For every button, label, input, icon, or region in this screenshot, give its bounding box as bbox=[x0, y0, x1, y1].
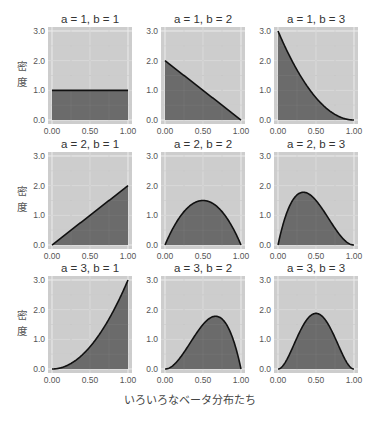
y-axis-label-row-3: 密度 bbox=[17, 309, 28, 337]
x-tick-label: 0.50 bbox=[82, 375, 99, 385]
y-tick-label: 0.0 bbox=[259, 115, 271, 125]
y-tick-label: 1.0 bbox=[146, 85, 158, 95]
y-tick-label: 3.0 bbox=[146, 26, 158, 36]
y-tick-label: 1.0 bbox=[33, 210, 45, 220]
y-axis-label-row-1: 密度 bbox=[17, 60, 28, 88]
panel-title: a = 3, b = 3 bbox=[287, 262, 345, 274]
panel-a2-b1: a = 2, b = 10.01.02.03.00.000.501.00 bbox=[33, 138, 136, 261]
x-tick-label: 1.00 bbox=[346, 251, 363, 261]
x-tick-label: 0.50 bbox=[308, 251, 325, 261]
y-tick-label: 1.0 bbox=[146, 334, 158, 344]
y-tick-label: 3.0 bbox=[33, 26, 45, 36]
panel-title: a = 2, b = 3 bbox=[287, 138, 345, 150]
panel-a2-b3: a = 2, b = 30.01.02.03.00.000.501.00 bbox=[259, 138, 362, 261]
x-tick-label: 1.00 bbox=[120, 126, 137, 136]
panel-title: a = 1, b = 3 bbox=[287, 13, 345, 25]
y-tick-label: 2.0 bbox=[146, 181, 158, 191]
panel-title: a = 3, b = 2 bbox=[174, 262, 232, 274]
panel-title: a = 2, b = 2 bbox=[174, 138, 232, 150]
x-tick-label: 0.50 bbox=[82, 251, 99, 261]
panel-title: a = 1, b = 2 bbox=[174, 13, 232, 25]
x-tick-label: 0.00 bbox=[157, 251, 174, 261]
x-tick-label: 0.00 bbox=[44, 251, 61, 261]
x-tick-label: 0.00 bbox=[270, 375, 287, 385]
x-tick-label: 1.00 bbox=[346, 375, 363, 385]
panel-a3-b2: a = 3, b = 20.01.02.03.00.000.501.00 bbox=[146, 262, 249, 385]
y-axis-label-row-2: 密度 bbox=[17, 185, 28, 213]
y-tick-label: 3.0 bbox=[259, 151, 271, 161]
y-tick-label: 0.0 bbox=[33, 364, 45, 374]
y-tick-label: 2.0 bbox=[33, 56, 45, 66]
y-tick-label: 3.0 bbox=[259, 275, 271, 285]
y-tick-label: 1.0 bbox=[33, 334, 45, 344]
x-tick-label: 1.00 bbox=[120, 251, 137, 261]
x-tick-label: 0.00 bbox=[157, 375, 174, 385]
x-tick-label: 0.00 bbox=[44, 375, 61, 385]
y-tick-label: 2.0 bbox=[146, 56, 158, 66]
y-tick-label: 0.0 bbox=[33, 240, 45, 250]
y-tick-label: 2.0 bbox=[33, 305, 45, 315]
y-tick-label: 2.0 bbox=[259, 305, 271, 315]
y-tick-label: 2.0 bbox=[146, 305, 158, 315]
x-tick-label: 1.00 bbox=[346, 126, 363, 136]
panel-title: a = 2, b = 1 bbox=[61, 138, 119, 150]
y-tick-label: 3.0 bbox=[146, 151, 158, 161]
y-tick-label: 1.0 bbox=[33, 85, 45, 95]
beta-distribution-facet-figure: a = 1, b = 10.01.02.03.00.000.501.00a = … bbox=[0, 0, 373, 421]
y-tick-label: 0.0 bbox=[259, 240, 271, 250]
x-tick-label: 1.00 bbox=[233, 375, 250, 385]
x-tick-label: 1.00 bbox=[233, 251, 250, 261]
y-tick-label: 0.0 bbox=[33, 115, 45, 125]
x-tick-label: 0.00 bbox=[270, 126, 287, 136]
x-tick-label: 0.50 bbox=[195, 251, 212, 261]
x-tick-label: 0.50 bbox=[82, 126, 99, 136]
y-tick-label: 3.0 bbox=[33, 151, 45, 161]
y-tick-label: 0.0 bbox=[146, 115, 158, 125]
panel-title: a = 3, b = 1 bbox=[61, 262, 119, 274]
x-tick-label: 0.50 bbox=[308, 126, 325, 136]
x-tick-label: 1.00 bbox=[233, 126, 250, 136]
panel-title: a = 1, b = 1 bbox=[61, 13, 119, 25]
x-tick-label: 0.00 bbox=[270, 251, 287, 261]
panel-a1-b3: a = 1, b = 30.01.02.03.00.000.501.00 bbox=[259, 13, 362, 136]
panel-a3-b1: a = 3, b = 10.01.02.03.00.000.501.00 bbox=[33, 262, 136, 385]
y-tick-label: 2.0 bbox=[33, 181, 45, 191]
panel-a3-b3: a = 3, b = 30.01.02.03.00.000.501.00 bbox=[259, 262, 362, 385]
y-tick-label: 1.0 bbox=[259, 85, 271, 95]
x-tick-label: 0.00 bbox=[44, 126, 61, 136]
y-tick-label: 3.0 bbox=[146, 275, 158, 285]
y-tick-label: 0.0 bbox=[146, 364, 158, 374]
x-tick-label: 1.00 bbox=[120, 375, 137, 385]
panel-a1-b1: a = 1, b = 10.01.02.03.00.000.501.00 bbox=[33, 13, 136, 136]
y-tick-label: 2.0 bbox=[259, 181, 271, 191]
panel-a1-b2: a = 1, b = 20.01.02.03.00.000.501.00 bbox=[146, 13, 249, 136]
panel-a2-b2: a = 2, b = 20.01.02.03.00.000.501.00 bbox=[146, 138, 249, 261]
x-tick-label: 0.50 bbox=[195, 126, 212, 136]
y-tick-label: 1.0 bbox=[146, 210, 158, 220]
x-tick-label: 0.00 bbox=[157, 126, 174, 136]
y-tick-label: 0.0 bbox=[259, 364, 271, 374]
x-axis-label: いろいろなベータ分布たち bbox=[124, 394, 256, 407]
facet-panels: a = 1, b = 10.01.02.03.00.000.501.00a = … bbox=[33, 13, 362, 385]
y-tick-label: 2.0 bbox=[259, 56, 271, 66]
x-tick-label: 0.50 bbox=[195, 375, 212, 385]
x-tick-label: 0.50 bbox=[308, 375, 325, 385]
y-tick-label: 3.0 bbox=[33, 275, 45, 285]
y-tick-label: 0.0 bbox=[146, 240, 158, 250]
y-tick-label: 3.0 bbox=[259, 26, 271, 36]
y-tick-label: 1.0 bbox=[259, 210, 271, 220]
y-tick-label: 1.0 bbox=[259, 334, 271, 344]
